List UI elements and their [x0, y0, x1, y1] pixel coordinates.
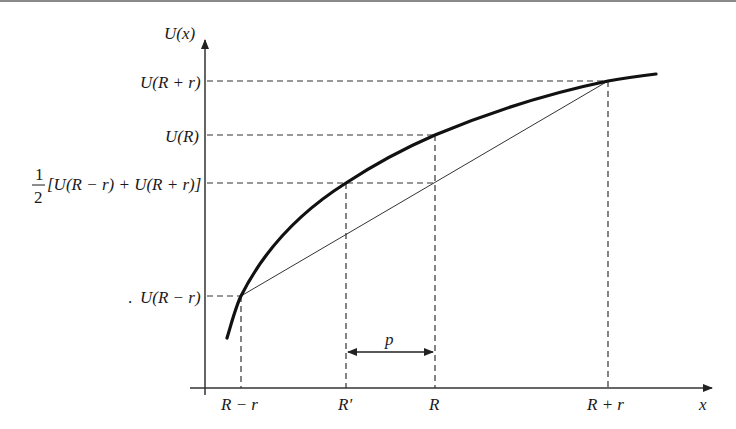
label-r-minus-r: R − r: [220, 395, 258, 414]
x-axis-label: x: [698, 395, 707, 414]
label-u-r-plus: U(R + r): [140, 73, 201, 92]
premium-label: p: [384, 330, 394, 349]
dashed-guides: [207, 81, 608, 388]
label-r: R: [428, 395, 440, 414]
chord-line: [241, 81, 608, 296]
label-r-plus-r: R + r: [586, 395, 624, 414]
utility-diagram: p U(x) U(R + r) U(R) 1 2 [U(R − r) + U(R…: [0, 0, 736, 429]
label-u-r-minus: U(R − r): [140, 288, 201, 307]
stray-dot: .: [128, 288, 132, 307]
label-r-prime: R′: [337, 395, 352, 414]
label-average-utility: [U(R − r) + U(R + r)]: [47, 175, 201, 194]
y-axis-label: U(x): [164, 24, 195, 43]
label-half-numerator: 1: [35, 165, 44, 184]
utility-curve: [227, 74, 656, 338]
label-half-denominator: 2: [34, 188, 43, 207]
label-u-r: U(R): [165, 127, 199, 146]
